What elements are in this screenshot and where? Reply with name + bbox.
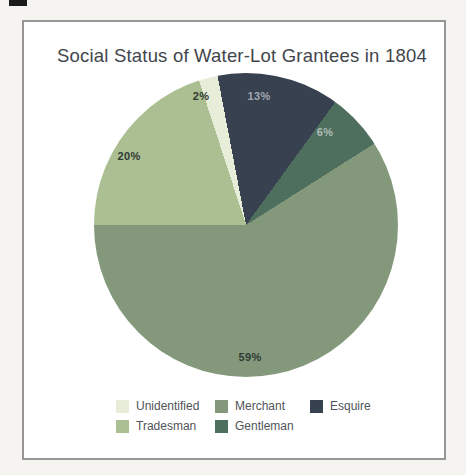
legend-label: Gentleman — [235, 419, 294, 433]
pie-slice-label: 2% — [193, 90, 210, 102]
legend-label: Unidentified — [136, 399, 199, 413]
legend-swatch-icon — [116, 420, 129, 433]
legend-label: Merchant — [235, 399, 285, 413]
pie-slice-label: 13% — [247, 90, 270, 102]
chart-legend: UnidentifiedTradesmanMerchantGentlemanEs… — [116, 399, 371, 433]
chart-title: Social Status of Water-Lot Grantees in 1… — [57, 45, 417, 67]
legend-swatch-icon — [116, 400, 129, 413]
legend-swatch-icon — [310, 400, 323, 413]
pie-slice-label: 6% — [317, 126, 334, 138]
pie-slice-label: 59% — [238, 351, 261, 363]
legend-label: Tradesman — [136, 419, 196, 433]
top-left-screen-artifact — [9, 0, 27, 6]
pie-chart — [94, 73, 398, 377]
legend-swatch-icon — [215, 400, 228, 413]
legend-item-tradesman: Tradesman — [116, 419, 215, 433]
legend-item-merchant: Merchant — [215, 399, 310, 413]
legend-item-unidentified: Unidentified — [116, 399, 215, 413]
legend-item-esquire: Esquire — [310, 399, 371, 413]
legend-item-gentleman: Gentleman — [215, 419, 310, 433]
legend-swatch-icon — [215, 420, 228, 433]
legend-label: Esquire — [330, 399, 371, 413]
pie-slice-label: 20% — [117, 150, 140, 162]
